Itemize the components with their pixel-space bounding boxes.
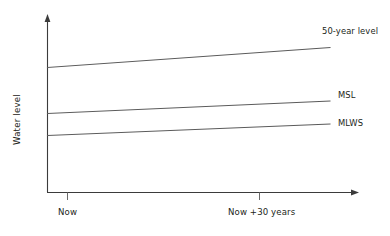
x-tick-label-now: Now [58,208,77,217]
x-tick-label-now-plus-30: Now +30 years [228,208,295,217]
x-axis-arrow-icon [351,190,359,196]
series-line-msl [48,101,331,114]
water-level-chart: Water level 50-year level MSL MLWS Now N… [0,0,390,236]
y-axis-label: Water level [12,131,82,145]
y-axis-arrow-icon [45,14,51,22]
series-label-msl: MSL [338,91,356,99]
series-label-mlws: MLWS [338,119,363,127]
series-label-50-year-level: 50-year level [322,27,378,35]
series-line-50-year-level [48,48,331,68]
series-line-mlws [48,124,331,136]
